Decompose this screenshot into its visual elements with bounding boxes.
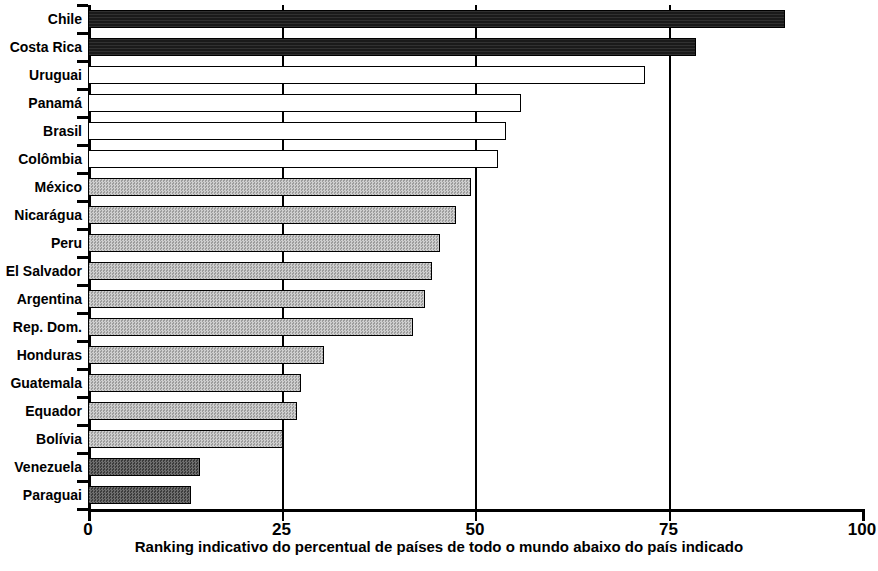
y-tick-7 [77, 200, 88, 203]
gridline-75 [669, 5, 671, 509]
bar-nicar-gua [88, 206, 456, 224]
category-label-guatemala: Guatemala [10, 374, 82, 392]
bar-guatemala [88, 374, 301, 392]
y-tick-0 [77, 4, 88, 7]
y-tick-13 [77, 368, 88, 371]
category-label-rep-dom: Rep. Dom. [13, 318, 82, 336]
bar-honduras [88, 346, 324, 364]
category-label-equador: Equador [25, 402, 82, 420]
bar-chart: ChileCosta RicaUruguaiPanamáBrasilColômb… [0, 0, 878, 571]
y-tick-4 [77, 116, 88, 119]
y-tick-17 [77, 480, 88, 483]
bar-bol-via [88, 430, 283, 448]
y-tick-14 [77, 396, 88, 399]
category-label-bol-via: Bolívia [36, 430, 82, 448]
category-label-brasil: Brasil [43, 122, 82, 140]
category-label-paraguai: Paraguai [23, 486, 82, 504]
y-tick-2 [77, 60, 88, 63]
y-tick-3 [77, 88, 88, 91]
bar-brasil [88, 122, 506, 140]
bar-uruguai [88, 66, 645, 84]
bar-m-xico [88, 178, 471, 196]
plot-area: 0255075100 [88, 5, 862, 509]
y-tick-1 [77, 32, 88, 35]
category-label-nicar-gua: Nicarágua [14, 206, 82, 224]
bar-venezuela [88, 458, 200, 476]
y-tick-15 [77, 424, 88, 427]
bar-argentina [88, 290, 425, 308]
y-tick-8 [77, 228, 88, 231]
y-tick-16 [77, 452, 88, 455]
bar-el-salvador [88, 262, 432, 280]
x-axis-caption: Ranking indicativo do percentual de país… [0, 538, 878, 555]
bar-peru [88, 234, 440, 252]
category-label-uruguai: Uruguai [29, 66, 82, 84]
bar-rep-dom [88, 318, 413, 336]
category-label-col-mbia: Colômbia [18, 150, 82, 168]
category-label-chile: Chile [48, 10, 82, 28]
category-label-el-salvador: El Salvador [6, 262, 82, 280]
category-label-panam: Panamá [28, 94, 82, 112]
bar-panam [88, 94, 521, 112]
bar-chile [88, 10, 785, 28]
category-label-argentina: Argentina [17, 290, 82, 308]
y-tick-6 [77, 172, 88, 175]
y-tick-12 [77, 340, 88, 343]
category-label-honduras: Honduras [17, 346, 82, 364]
y-tick-5 [77, 144, 88, 147]
bar-costa-rica [88, 38, 696, 56]
category-label-costa-rica: Costa Rica [10, 38, 82, 56]
category-label-venezuela: Venezuela [14, 458, 82, 476]
category-label-peru: Peru [51, 234, 82, 252]
category-label-m-xico: México [35, 178, 82, 196]
bar-col-mbia [88, 150, 498, 168]
bar-paraguai [88, 486, 191, 504]
y-tick-11 [77, 312, 88, 315]
bar-equador [88, 402, 297, 420]
y-tick-9 [77, 256, 88, 259]
y-tick-18 [77, 508, 88, 511]
y-tick-10 [77, 284, 88, 287]
